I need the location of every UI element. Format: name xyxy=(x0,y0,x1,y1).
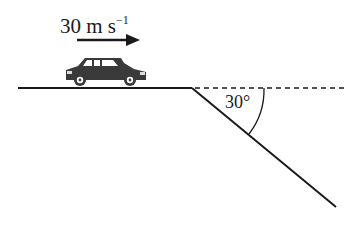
diagram-canvas: 30 m s−1 30° xyxy=(0,0,357,237)
car-icon xyxy=(66,58,146,86)
angle-arc xyxy=(249,88,264,134)
angle-label: 30° xyxy=(225,92,250,112)
slope-line xyxy=(192,88,336,207)
velocity-label: 30 m s−1 xyxy=(60,13,129,38)
